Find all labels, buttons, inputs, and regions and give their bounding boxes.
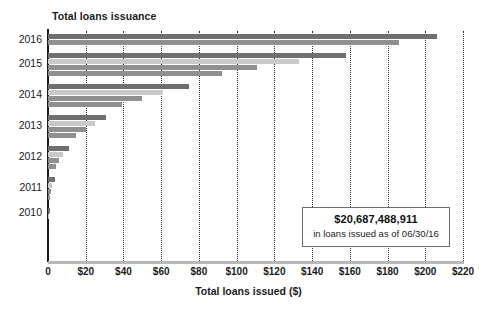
x-tick-label-60: $60 [153, 266, 170, 277]
bar-2012-1 [48, 146, 69, 151]
bar-2015-4 [48, 71, 222, 76]
bar-2012-3 [48, 158, 59, 163]
y-tick-label-2015: 2015 [19, 57, 42, 69]
y-tick-label-2016: 2016 [19, 33, 42, 45]
bar-2015-2 [48, 59, 299, 64]
x-tick-label-220: $220 [452, 266, 474, 277]
bar-2011-3 [48, 189, 51, 194]
bar-2012-4 [48, 164, 56, 169]
x-tick-label-100: $100 [226, 266, 248, 277]
bar-2014-3 [48, 96, 142, 101]
x-tick-label-120: $120 [263, 266, 285, 277]
x-axis-tick-labels: 0$20$40$60$80$100$120$140$160$180$200$22… [0, 266, 497, 282]
bar-2010-2 [48, 214, 49, 219]
y-tick-label-2013: 2013 [19, 119, 42, 131]
bar-2012-2 [48, 152, 63, 157]
bar-2013-1 [48, 115, 106, 120]
bar-2015-1 [48, 53, 346, 58]
x-tick-label-40: $40 [115, 266, 132, 277]
x-tick-label-180: $180 [376, 266, 398, 277]
bar-2010-1 [48, 208, 50, 213]
y-tick-label-2010: 2010 [19, 206, 42, 218]
y-tick-label-2012: 2012 [19, 150, 42, 162]
chart-container: Total loans issuance 2016201520142013201… [0, 0, 497, 311]
x-tick-label-160: $160 [339, 266, 361, 277]
bar-2016-2 [48, 40, 399, 45]
bar-2016-1 [48, 34, 437, 39]
x-axis-title: Total loans issued ($) [0, 285, 497, 297]
x-tick-label-200: $200 [414, 266, 436, 277]
chart-title: Total loans issuance [52, 10, 157, 22]
gridline-220 [463, 31, 464, 261]
bar-2014-4 [48, 102, 122, 107]
total-issued-callout: $20,687,488,911 in loans issued as of 06… [302, 207, 450, 247]
bar-2014-1 [48, 84, 189, 89]
bar-2011-4 [48, 195, 50, 200]
bar-2013-2 [48, 121, 95, 126]
bar-2013-3 [48, 127, 86, 132]
callout-amount: $20,687,488,911 [309, 213, 443, 227]
y-tick-label-2011: 2011 [19, 181, 42, 193]
x-axis-line [48, 261, 464, 264]
x-tick-label-140: $140 [301, 266, 323, 277]
x-tick-label-20: $20 [77, 266, 94, 277]
callout-caption: in loans issued as of 06/30/16 [309, 228, 443, 240]
x-tick-label-0: 0 [45, 266, 51, 277]
y-tick-label-2014: 2014 [19, 88, 42, 100]
bar-2014-2 [48, 90, 163, 95]
bar-2011-2 [48, 183, 52, 188]
bar-2011-1 [48, 177, 55, 182]
x-tick-label-80: $80 [191, 266, 208, 277]
bar-2013-4 [48, 133, 76, 138]
bar-2015-3 [48, 65, 257, 70]
